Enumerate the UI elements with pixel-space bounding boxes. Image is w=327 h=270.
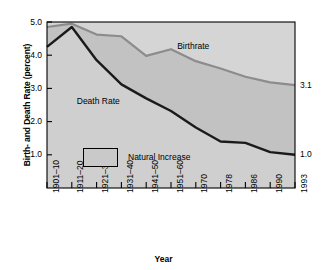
x-tick-label: 1931–40	[125, 160, 135, 193]
x-tick-label: 1990	[274, 174, 284, 193]
x-tick-label: 1993	[299, 174, 309, 193]
y-tick-label: 3.0	[16, 83, 42, 93]
x-tick-label: 1941–50	[150, 160, 160, 193]
series-annotation: Death Rate	[77, 96, 120, 106]
x-tick-label: 1901–10	[51, 160, 61, 193]
x-tick-label: 1978	[224, 174, 234, 193]
y-tick-label: 2.0	[16, 116, 42, 126]
y-tick-label: 5.0	[16, 17, 42, 27]
x-axis-title: Year	[0, 254, 327, 264]
end-value-label: 1.0	[300, 149, 312, 159]
legend-swatch-natural-increase	[83, 148, 118, 167]
y-tick-label: 1.0	[16, 149, 42, 159]
chart-figure: Birth- and Death Rate (percent) Year 1.0…	[0, 0, 327, 270]
x-tick-label: 1970	[199, 174, 209, 193]
end-value-label: 3.1	[300, 80, 312, 90]
x-tick-label: 1951–60	[175, 160, 185, 193]
series-annotation: Birthrate	[177, 41, 209, 51]
y-tick-label: 4.0	[16, 50, 42, 60]
y-axis-title: Birth- and Death Rate (percent)	[22, 15, 32, 195]
chart-plot-svg	[0, 0, 327, 270]
legend-label-natural-increase: Natural Increase	[128, 152, 190, 162]
x-tick-label: 1986	[249, 174, 259, 193]
